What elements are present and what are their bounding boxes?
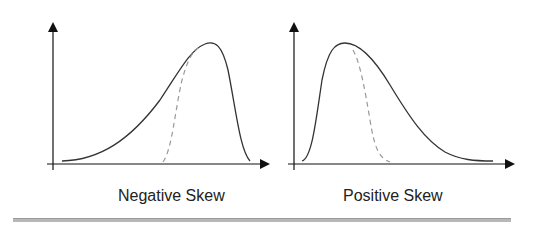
horizontal-divider xyxy=(13,218,511,222)
positive-skew-label: Positive Skew xyxy=(343,187,443,205)
skew-diagram xyxy=(0,0,551,229)
negative-skew-label: Negative Skew xyxy=(118,187,225,205)
pos-normal-dashed xyxy=(353,50,390,162)
neg-normal-dashed xyxy=(163,48,198,162)
pos-skew-curve xyxy=(302,43,493,161)
neg-skew-curve xyxy=(62,43,250,161)
